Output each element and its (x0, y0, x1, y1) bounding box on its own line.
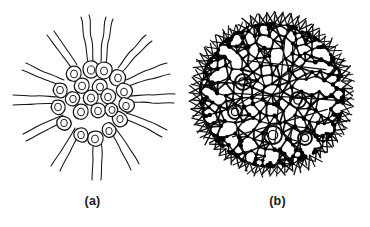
panel-b-caption: (b) (185, 193, 370, 209)
panel-a-caption: (a) (0, 193, 185, 209)
volvox-colony-micrograph (185, 0, 370, 192)
figure-plate: (a) (b) (0, 0, 370, 227)
figure-panel-b: (b) (185, 0, 370, 227)
volvox-colony-svg (185, 0, 370, 192)
volvox-line-drawing-svg (0, 0, 185, 192)
volvox-line-drawing (0, 0, 185, 192)
figure-panel-a: (a) (0, 0, 185, 227)
